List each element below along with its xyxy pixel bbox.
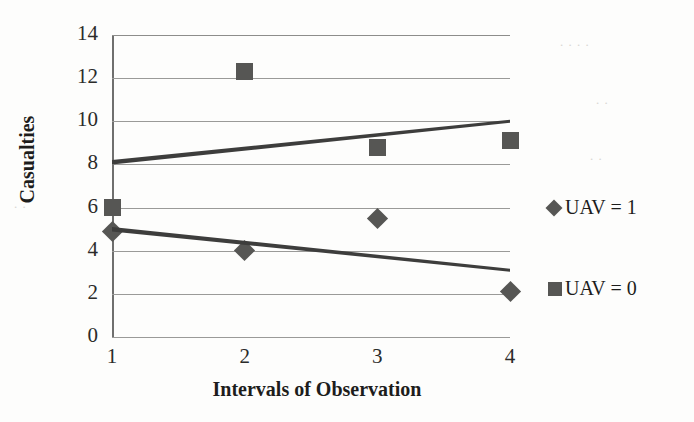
gridline (112, 35, 510, 36)
page-bleed-artifact: . . . . (560, 34, 590, 50)
gridline (112, 294, 510, 295)
y-tick-label: 10 (52, 107, 98, 132)
data-point-marker (369, 139, 386, 156)
legend-label: UAV = 1 (565, 196, 637, 219)
data-point-marker (367, 208, 388, 229)
x-axis-title: Intervals of Observation (152, 378, 482, 401)
y-axis-title: Casualties (16, 95, 39, 225)
legend-label: UAV = 0 (565, 277, 637, 300)
data-point-marker (101, 221, 122, 242)
y-tick-label: 6 (52, 194, 98, 219)
chart-figure: . . . . . . . . . . 14121086420 1234 Cas… (0, 0, 694, 422)
gridline (112, 121, 510, 122)
y-tick-label: 12 (52, 64, 98, 89)
diamond-marker-icon (546, 199, 563, 216)
page-bleed-artifact: . . (596, 92, 609, 108)
y-tick-label: 4 (52, 237, 98, 262)
page-bleed-artifact: . . (590, 148, 603, 164)
plot-area (112, 35, 510, 337)
y-tick-label: 14 (52, 21, 98, 46)
x-tick-label: 4 (490, 344, 530, 369)
data-point-marker (104, 199, 121, 216)
chart-legend: UAV = 1UAV = 0 (548, 196, 637, 358)
gridline (112, 78, 510, 79)
gridline (112, 251, 510, 252)
square-marker-icon (548, 282, 562, 296)
x-tick-label: 3 (357, 344, 397, 369)
y-tick-label: 2 (52, 280, 98, 305)
x-tick-label: 1 (92, 344, 132, 369)
gridline (112, 208, 510, 209)
gridline (112, 164, 510, 165)
x-tick-label: 2 (225, 344, 265, 369)
data-point-marker (499, 281, 520, 302)
data-point-marker (236, 63, 253, 80)
y-tick-label: 8 (52, 150, 98, 175)
gridline (112, 337, 510, 338)
legend-entry: UAV = 1 (548, 196, 637, 219)
legend-entry: UAV = 0 (548, 277, 637, 300)
data-point-marker (234, 240, 255, 261)
data-point-marker (502, 132, 519, 149)
